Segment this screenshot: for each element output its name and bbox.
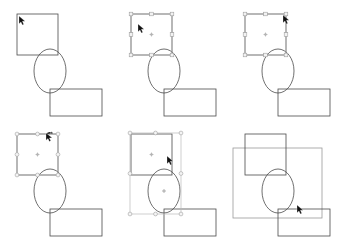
shape-ellipse bbox=[34, 49, 66, 93]
arrow-cursor-icon bbox=[138, 24, 144, 33]
panel-grid bbox=[0, 0, 342, 240]
shape-rectangle bbox=[50, 209, 102, 236]
canvas-panel-1[interactable] bbox=[0, 0, 114, 120]
shape-ellipse bbox=[262, 169, 294, 213]
canvas-panel-2[interactable] bbox=[114, 0, 228, 120]
shape-rectangle bbox=[50, 89, 102, 116]
canvas-panel-6[interactable] bbox=[228, 120, 342, 240]
marquee-selection-rect bbox=[233, 148, 322, 218]
canvas-panel-3[interactable] bbox=[228, 0, 342, 120]
arrow-cursor-icon bbox=[297, 205, 303, 214]
selection-chrome-square bbox=[15, 132, 60, 177]
rotate-cursor-icon bbox=[46, 131, 53, 141]
shape-rectangle bbox=[164, 209, 216, 236]
canvas-panel-4[interactable] bbox=[0, 120, 114, 240]
selection-chrome-square bbox=[129, 12, 174, 57]
canvas-panel-5[interactable] bbox=[114, 120, 228, 240]
selection-chrome-square bbox=[243, 12, 288, 57]
arrow-cursor-icon bbox=[19, 16, 25, 25]
shape-rectangle bbox=[164, 89, 216, 116]
selection-chrome-multi bbox=[128, 131, 183, 216]
shape-rectangle bbox=[278, 89, 330, 116]
